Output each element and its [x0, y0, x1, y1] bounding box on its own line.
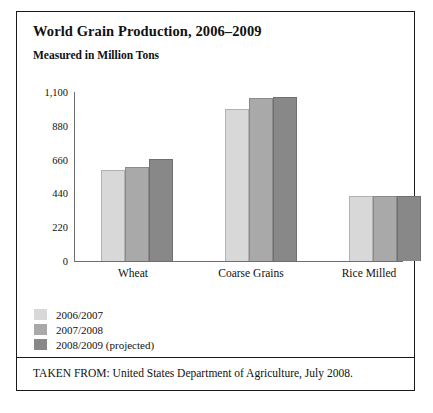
bar-group	[225, 92, 297, 261]
chart-title: World Grain Production, 2006–2009	[33, 23, 262, 40]
y-axis-tick-660: 660	[52, 154, 68, 165]
legend-label: 2006/2007	[56, 309, 103, 321]
bar-groups	[75, 92, 403, 261]
bar	[249, 98, 273, 261]
chart-subtitle: Measured in Million Tons	[33, 49, 159, 61]
legend-item: 2007/2008	[34, 322, 154, 337]
x-axis-category-labels: WheatCoarse GrainsRice Milled	[74, 267, 402, 279]
y-axis-tick-220: 220	[52, 222, 68, 233]
bar	[373, 196, 397, 261]
source-note: TAKEN FROM: United States Department of …	[33, 367, 353, 379]
x-axis-label-rice-milled: Rice Milled	[336, 267, 402, 279]
legend-swatch-icon	[34, 324, 47, 335]
bar	[101, 170, 125, 261]
bar-chart-plot: 02204406608801,100 WheatCoarse GrainsRic…	[74, 92, 402, 277]
bar	[225, 109, 249, 261]
y-axis-tick-0: 0	[63, 256, 68, 267]
bar	[349, 196, 373, 261]
legend-item: 2008/2009 (projected)	[34, 337, 154, 352]
y-axis-tick-880: 880	[52, 120, 68, 131]
bar	[149, 159, 173, 261]
legend-item: 2006/2007	[34, 307, 154, 322]
chart-axes: 02204406608801,100	[74, 92, 403, 262]
footer-divider	[17, 357, 414, 358]
legend-label: 2007/2008	[56, 324, 103, 336]
bar-group	[101, 92, 173, 261]
legend-swatch-icon	[34, 339, 47, 350]
legend-swatch-icon	[34, 309, 47, 320]
x-axis-label-wheat: Wheat	[100, 267, 166, 279]
y-axis-tick-440: 440	[52, 188, 68, 199]
bar	[397, 196, 421, 261]
bar-group	[349, 92, 421, 261]
bar	[125, 167, 149, 261]
chart-legend: 2006/20072007/20082008/2009 (projected)	[34, 307, 154, 352]
chart-figure: World Grain Production, 2006–2009 Measur…	[16, 11, 415, 391]
bar	[273, 97, 297, 261]
y-axis-tick-1100: 1,100	[44, 87, 68, 98]
x-axis-label-coarse-grains: Coarse Grains	[218, 267, 284, 279]
legend-label: 2008/2009 (projected)	[56, 339, 154, 351]
